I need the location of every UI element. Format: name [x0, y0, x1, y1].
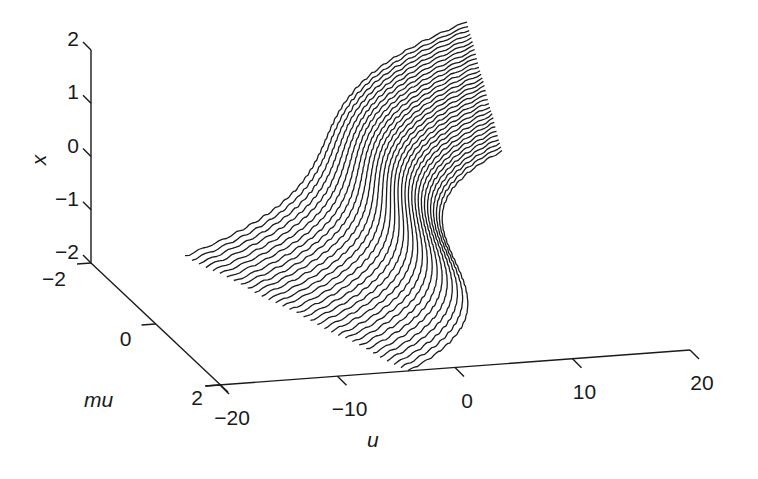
mu-tick-label: 2	[191, 386, 203, 409]
surface-traces	[185, 22, 502, 370]
x-tick-label: −2	[55, 240, 79, 263]
mu-axis-label: mu	[84, 388, 113, 411]
u-tick	[220, 385, 229, 394]
surface-trace	[227, 45, 474, 277]
x-tick-label: −1	[55, 187, 79, 210]
u-axis-ticks: −20−1001020	[214, 350, 713, 429]
x-tick	[83, 255, 91, 263]
x-tick	[83, 149, 91, 157]
surface-trace	[380, 136, 498, 358]
x-tick-label: 0	[67, 134, 79, 157]
x-axis-label: x	[27, 153, 50, 166]
x-tick	[83, 95, 91, 103]
u-tick	[690, 350, 699, 359]
x-axis-ticks: 210−1−2	[55, 27, 91, 263]
x-tick-label: 2	[67, 27, 79, 50]
mu-axis-line	[91, 263, 228, 392]
u-tick-label: 20	[690, 371, 713, 394]
axes: 210−1−2 −202 −20−1001020	[42, 27, 714, 429]
u-tick-label: 0	[461, 389, 473, 412]
x-tick	[83, 42, 91, 50]
u-tick-label: 10	[573, 380, 596, 403]
mu-tick-label: 0	[120, 327, 132, 350]
u-axis-label: u	[367, 428, 379, 451]
u-tick	[338, 376, 347, 385]
mu-tick	[77, 263, 91, 264]
u-axis-line	[205, 350, 690, 386]
surface-plot: 210−1−2 −202 −20−1001020 x mu u	[0, 0, 758, 479]
x-tick	[83, 202, 91, 210]
u-tick	[455, 368, 464, 377]
mu-tick-label: −2	[42, 267, 66, 290]
x-tick-label: 1	[67, 80, 79, 103]
mu-tick	[206, 385, 220, 386]
mu-axis-ticks: −202	[42, 263, 220, 409]
u-tick-label: −10	[332, 397, 368, 420]
mu-tick	[142, 324, 156, 325]
u-tick	[573, 359, 582, 368]
u-tick-label: −20	[214, 406, 250, 429]
